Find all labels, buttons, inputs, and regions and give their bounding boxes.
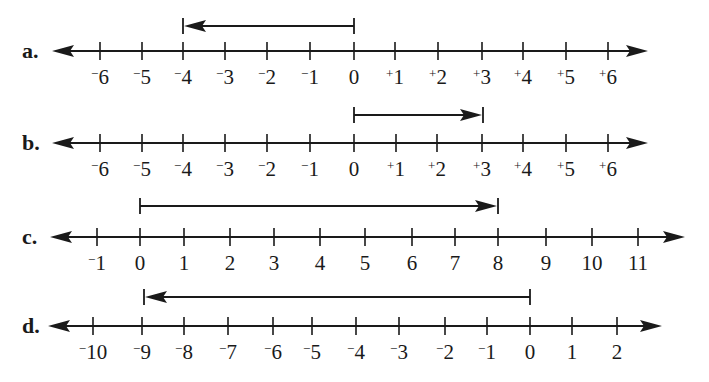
tick-label: −4	[347, 340, 365, 364]
tick-label: 1	[567, 340, 578, 364]
tick-label: 3	[269, 251, 280, 275]
number-line-c: c.−101234567891011	[22, 198, 685, 275]
displacement-vector	[354, 107, 483, 123]
number-line-d: d.−10−9−8−7−6−5−4−3−2−1012	[22, 289, 662, 364]
tick-label: 2	[612, 340, 623, 364]
tick-label: −2	[258, 65, 276, 89]
displacement-vector	[183, 18, 354, 34]
tick-label: −5	[133, 65, 151, 89]
tick-label: −9	[133, 340, 151, 364]
tick-label: +6	[599, 157, 617, 181]
tick-label: 0	[525, 340, 536, 364]
number-line-b: b.−6−5−4−3−2−10+1+2+3+4+5+6	[22, 107, 648, 181]
tick-label: −4	[174, 65, 192, 89]
tick-label: 2	[225, 251, 236, 275]
tick-label: 1	[179, 251, 190, 275]
tick-label: −3	[390, 340, 408, 364]
tick-label: −3	[216, 65, 234, 89]
tick-label: −10	[79, 340, 107, 364]
displacement-vector	[140, 198, 498, 214]
tick-label: +6	[599, 65, 617, 89]
tick-label: −5	[303, 340, 321, 364]
tick-label: 10	[582, 251, 603, 275]
tick-label: 4	[315, 251, 326, 275]
part-label: a.	[22, 38, 39, 63]
tick-label: −7	[219, 340, 237, 364]
tick-label: −6	[91, 65, 109, 89]
tick-label: −2	[258, 157, 276, 181]
tick-label: +2	[428, 157, 446, 181]
tick-label: −4	[174, 157, 192, 181]
tick-label: −8	[175, 340, 193, 364]
tick-label: 0	[349, 157, 360, 181]
tick-label: +4	[514, 65, 532, 89]
tick-label: +1	[387, 157, 405, 181]
tick-label: −6	[264, 340, 282, 364]
tick-label: 6	[407, 251, 418, 275]
displacement-vector	[144, 289, 530, 305]
part-label: b.	[22, 130, 40, 155]
tick-label: −1	[301, 65, 319, 89]
tick-label: 7	[450, 251, 461, 275]
tick-label: −1	[478, 340, 496, 364]
tick-label: −5	[133, 157, 151, 181]
tick-label: 5	[360, 251, 371, 275]
part-label: d.	[22, 313, 40, 338]
tick-label: 0	[349, 65, 360, 89]
tick-label: 0	[135, 251, 146, 275]
tick-label: 9	[541, 251, 552, 275]
tick-label: +4	[514, 157, 532, 181]
tick-label: −2	[436, 340, 454, 364]
tick-label: 8	[493, 251, 504, 275]
tick-label: +5	[557, 65, 575, 89]
tick-label: −6	[91, 157, 109, 181]
tick-label: +3	[473, 65, 491, 89]
tick-label: +5	[557, 157, 575, 181]
tick-label: −3	[216, 157, 234, 181]
number-line-figure: a.−6−5−4−3−2−10+1+2+3+4+5+6b.−6−5−4−3−2−…	[0, 0, 709, 382]
tick-label: 11	[628, 251, 648, 275]
tick-label: −1	[88, 251, 106, 275]
tick-label: +3	[473, 157, 491, 181]
number-line-a: a.−6−5−4−3−2−10+1+2+3+4+5+6	[22, 18, 648, 89]
tick-label: −1	[301, 157, 319, 181]
tick-label: +1	[386, 65, 404, 89]
part-label: c.	[22, 224, 37, 249]
tick-label: +2	[429, 65, 447, 89]
